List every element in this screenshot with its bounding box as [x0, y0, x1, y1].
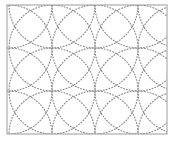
frame-background — [7, 5, 167, 134]
overlapping-circles-diagram — [0, 0, 187, 143]
figure-root — [0, 0, 187, 143]
